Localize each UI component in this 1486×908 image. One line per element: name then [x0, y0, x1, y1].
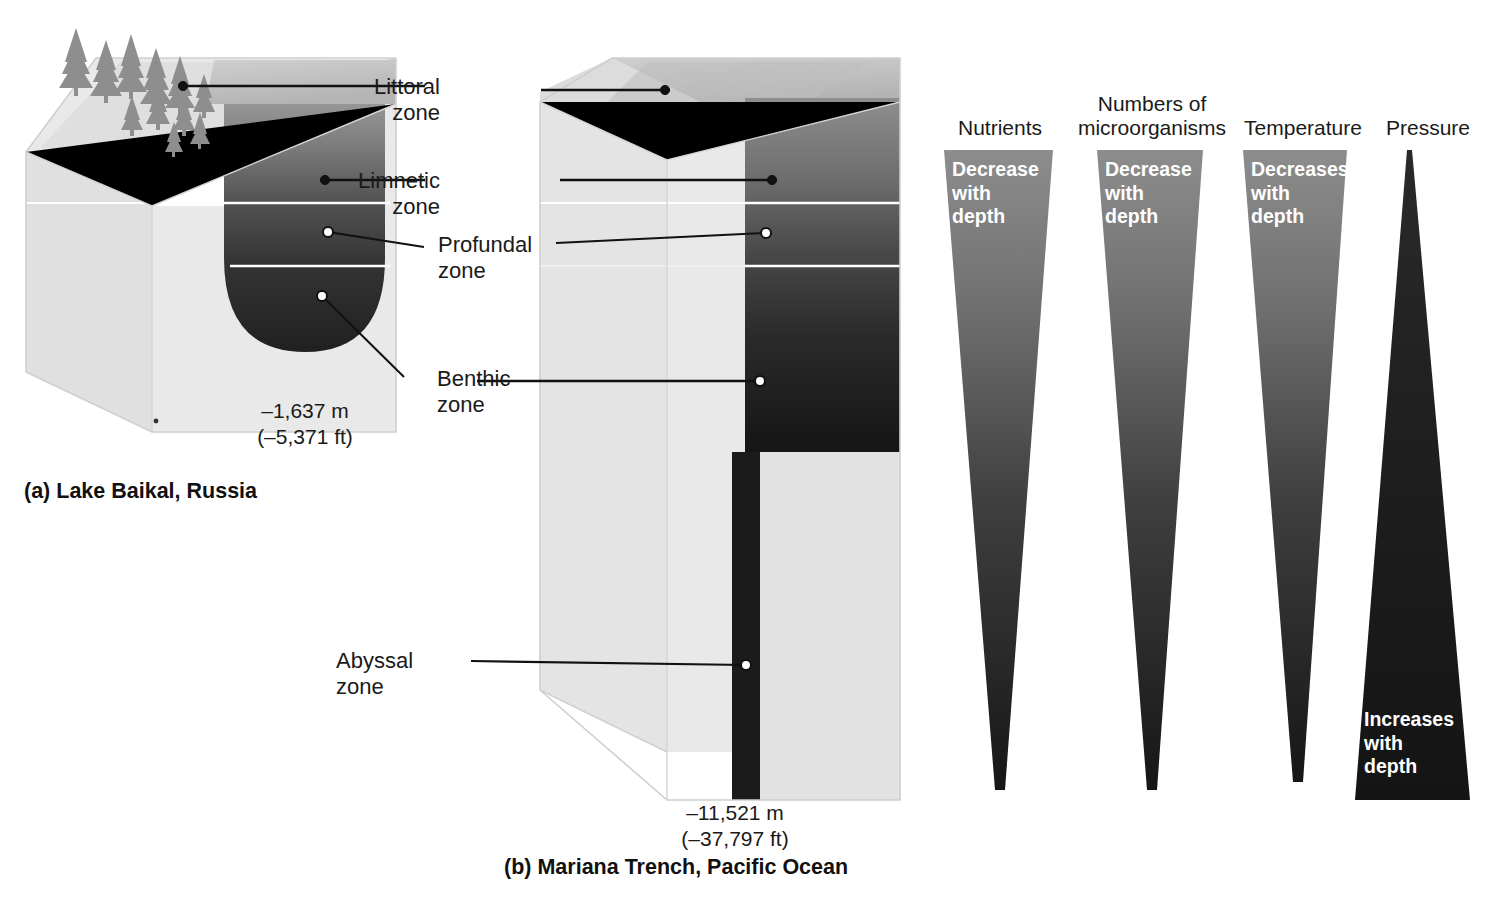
label-profundal-zone: Profundal zone — [438, 232, 588, 284]
column-header-microorganisms: Numbers of microorganisms — [1072, 92, 1232, 140]
depth-label-mariana: –11,521 m (–37,797 ft) — [610, 800, 860, 852]
label-limnetic-zone: Limnetic zone — [300, 168, 440, 220]
column-header-pressure: Pressure — [1368, 116, 1486, 140]
figure-caption-b: (b) Mariana Trench, Pacific Ocean — [504, 855, 848, 880]
triangle-nutrients — [944, 150, 1053, 790]
trend-text-pressure: Increases with depth — [1364, 708, 1484, 779]
column-header-nutrients: Nutrients — [930, 116, 1070, 140]
depth-label-baikal: –1,637 m (–5,371 ft) — [180, 398, 430, 450]
triangle-pressure — [1355, 150, 1470, 800]
trend-text-temperature: Decreases with depth — [1251, 158, 1366, 229]
triangle-temperature — [1243, 150, 1347, 782]
figure-caption-a: (a) Lake Baikal, Russia — [24, 479, 257, 504]
figure-canvas: Littoral zone Limnetic zone Profundal zo… — [0, 0, 1486, 908]
triangle-microorganisms — [1097, 150, 1203, 790]
label-abyssal-zone: Abyssal zone — [336, 648, 486, 700]
mariana-trench-block — [540, 58, 910, 800]
trend-text-microorganisms: Decrease with depth — [1105, 158, 1215, 229]
label-littoral-zone: Littoral zone — [300, 74, 440, 126]
trend-text-nutrients: Decrease with depth — [952, 158, 1062, 229]
label-benthic-zone: Benthic zone — [437, 366, 577, 418]
column-header-temperature: Temperature — [1228, 116, 1378, 140]
abyssal-slot — [732, 452, 760, 800]
gradient-triangles — [944, 150, 1470, 800]
